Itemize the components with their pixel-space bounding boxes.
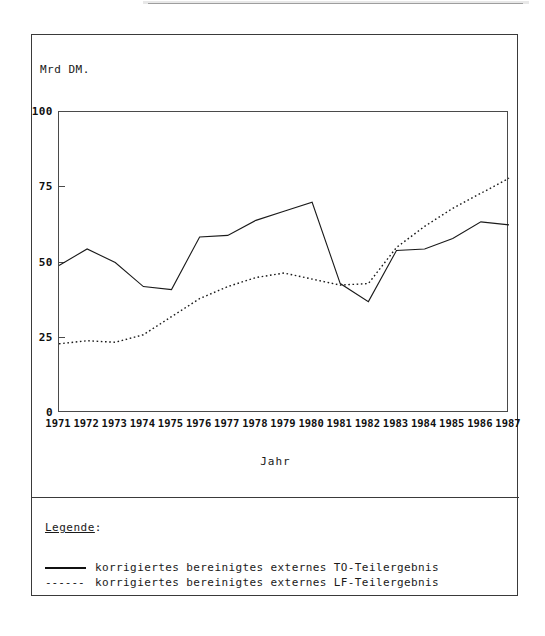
legend-heading: Legende: bbox=[45, 521, 102, 534]
x-axis-tick-label: 1973 bbox=[102, 417, 127, 429]
x-axis-tick-label: 1987 bbox=[495, 417, 520, 429]
series-line-to bbox=[59, 202, 509, 301]
figure-outer-box: Mrd DM. 0255075100 197119721973197419751… bbox=[31, 34, 518, 596]
y-axis-tick-label: 75 bbox=[13, 180, 53, 193]
x-axis-tick-group: 1971197219731974197519761977197819791980… bbox=[58, 417, 508, 433]
x-axis-tick-label: 1972 bbox=[73, 417, 98, 429]
x-axis-tick-label: 1975 bbox=[158, 417, 183, 429]
x-axis-tick-label: 1984 bbox=[411, 417, 436, 429]
legend-region: Legende: korrigiertes bereinigtes extern… bbox=[32, 498, 519, 597]
x-axis-tick-label: 1981 bbox=[327, 417, 352, 429]
y-axis-tick-label: 50 bbox=[13, 256, 53, 269]
x-axis-tick-label: 1986 bbox=[467, 417, 492, 429]
legend-item-to-label: korrigiertes bereinigtes externes TO-Tei… bbox=[95, 561, 439, 574]
x-axis-tick-label: 1978 bbox=[242, 417, 267, 429]
scan-artifact-line bbox=[148, 3, 523, 4]
x-axis-tick-label: 1980 bbox=[298, 417, 323, 429]
legend-dashed-line-icon: ------ bbox=[45, 578, 86, 588]
x-axis-tick-label: 1971 bbox=[45, 417, 70, 429]
y-axis-title: Mrd DM. bbox=[40, 63, 90, 76]
x-axis-tick-label: 1974 bbox=[130, 417, 155, 429]
x-axis-tick-label: 1977 bbox=[214, 417, 239, 429]
x-axis-tick-label: 1976 bbox=[186, 417, 211, 429]
legend-heading-colon: : bbox=[95, 521, 102, 534]
y-axis-tick-label: 25 bbox=[13, 331, 53, 344]
x-axis-tick-label: 1983 bbox=[383, 417, 408, 429]
x-axis-tick-label: 1985 bbox=[439, 417, 464, 429]
legend-item-lf: ------ korrigiertes bereinigtes externes… bbox=[45, 575, 439, 590]
legend-item-lf-label: korrigiertes bereinigtes externes LF-Tei… bbox=[95, 576, 439, 589]
x-axis-title: Jahr bbox=[32, 455, 519, 468]
x-axis-tick-label: 1982 bbox=[355, 417, 380, 429]
x-axis-tick-label: 1979 bbox=[270, 417, 295, 429]
legend-item-to: korrigiertes bereinigtes externes TO-Tei… bbox=[45, 560, 439, 575]
chart-region: Mrd DM. 0255075100 197119721973197419751… bbox=[32, 35, 517, 497]
series-line-lf bbox=[59, 178, 509, 344]
legend-solid-line-icon bbox=[45, 563, 86, 573]
y-axis-tick-label: 100 bbox=[13, 105, 53, 118]
legend-heading-text: Legende bbox=[45, 521, 95, 534]
plot-frame bbox=[58, 111, 508, 412]
data-series-layer bbox=[59, 112, 509, 413]
